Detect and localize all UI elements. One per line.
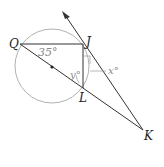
geometry-diagram: Q J L K 35° y° x° bbox=[0, 0, 164, 167]
label-L: L bbox=[78, 91, 87, 105]
angle-label-x: x° bbox=[108, 65, 119, 76]
label-J: J bbox=[83, 35, 92, 49]
angle-label-y: y° bbox=[69, 69, 81, 80]
label-Q: Q bbox=[9, 37, 19, 51]
center-point bbox=[50, 65, 53, 68]
angle-label-35: 35° bbox=[38, 46, 58, 59]
arrowhead-icon bbox=[62, 11, 70, 19]
label-K: K bbox=[143, 129, 154, 143]
